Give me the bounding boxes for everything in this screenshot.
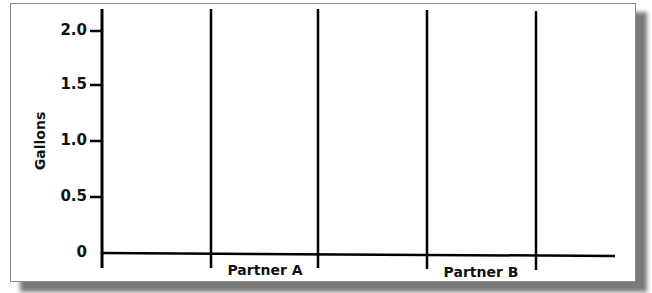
chart-axes — [0, 0, 652, 293]
y-tick-label-2-0: 2.0 — [47, 21, 87, 39]
x-axis-line — [102, 253, 615, 256]
y-axis-label: Gallons — [32, 112, 48, 170]
y-tick-label-1-5: 1.5 — [47, 75, 87, 93]
y-tick-label-0: 0 — [47, 243, 87, 261]
category-label-partner-a: Partner A — [205, 262, 325, 278]
y-tick-label-0-5: 0.5 — [47, 187, 87, 205]
y-tick-label-1-0: 1.0 — [47, 131, 87, 149]
category-label-partner-b: Partner B — [421, 264, 541, 280]
